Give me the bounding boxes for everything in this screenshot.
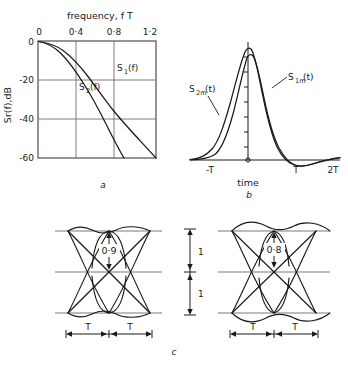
panel-b-label-s1m-tail: (t) <box>303 72 314 82</box>
panel-a-label-s2-tail: (f) <box>90 82 100 92</box>
panel-a-label-s1: S 1 (f) <box>117 63 138 76</box>
eye-left-T2-label: T <box>126 322 133 332</box>
eye-right-bottom-ripple <box>232 313 330 322</box>
panel-a-label-s2: S 2 (f) <box>79 82 100 95</box>
panel-a-caption: a <box>100 180 106 190</box>
panel-b-leader-s1m <box>272 77 287 88</box>
panel-b-leader-s2m <box>208 96 219 115</box>
panel-b: -T T 2T time S 1m (t) S 2m (t) b <box>189 42 340 200</box>
eye-right-T2-label: T <box>291 322 298 332</box>
panel-a-plot-frame <box>38 41 156 158</box>
eye-right-T1-arrow-end <box>266 331 272 336</box>
level-scale: 1 1 <box>184 229 204 315</box>
eye-right-T2-arrow-start <box>276 331 282 336</box>
panel-a-x-tick-2: 0·8 <box>107 27 122 37</box>
eye-right-top-ripple <box>232 222 330 231</box>
panel-a-y-axis-title: Sr(f),dB <box>2 87 13 123</box>
level-scale-label-lower: 1 <box>198 289 204 299</box>
eye-right-arrow-down <box>271 262 276 268</box>
panel-a-label-s1-tail: (f) <box>128 63 138 73</box>
eye-right-opening-label: 0·8 <box>266 244 281 255</box>
panel-b-label-s1m-base: S <box>288 72 294 82</box>
level-scale-arrow-bottom <box>187 309 192 315</box>
panel-b-curve-s2m <box>190 48 340 166</box>
eye-left-T2-arrow-end <box>146 331 152 336</box>
panel-a-curve-s1 <box>39 42 157 159</box>
eye-right-T2-arrow-end <box>312 331 318 336</box>
panel-a: frequency, f T Sr(f),dB 0 0·4 0·8 1·2 0 … <box>2 10 157 190</box>
panel-a-label-s1-base: S <box>117 63 123 73</box>
eye-left-T1-arrow-end <box>101 331 107 336</box>
level-scale-label-upper: 1 <box>198 247 204 257</box>
eye-left-arrow-down <box>106 264 111 270</box>
panel-a-x-axis-title: frequency, f T <box>67 10 133 21</box>
eye-diagram-right: 0·8 T T <box>218 222 330 338</box>
panel-a-y-tick-3: -60 <box>19 153 34 163</box>
level-scale-arrow-mid-up <box>187 264 192 270</box>
eye-left-lower-lens <box>92 276 126 313</box>
panel-b-label-s2m-base: S <box>189 84 195 94</box>
eye-left-T1-arrow-start <box>66 331 72 336</box>
level-scale-arrow-mid-down <box>187 274 192 280</box>
eye-right-T1-arrow-start <box>230 331 236 336</box>
panel-c: 0·9 T T <box>55 222 330 357</box>
figure-svg: frequency, f T Sr(f),dB 0 0·4 0·8 1·2 0 … <box>0 0 348 365</box>
panel-a-label-s2-base: S <box>79 82 85 92</box>
panel-a-curve-s2 <box>39 42 125 159</box>
eye-right-time-dimensions: T T <box>230 322 318 338</box>
panel-a-y-tick-1: -20 <box>19 75 34 85</box>
panel-a-x-tick-1: 0·4 <box>69 27 84 37</box>
panel-a-y-tick-2: -40 <box>19 114 34 124</box>
panel-b-label-s1m: S 1m (t) <box>272 72 314 88</box>
panel-b-x-tick-2: 2T <box>327 165 339 175</box>
panel-a-x-tick-0: 0 <box>36 27 42 37</box>
panel-b-caption: b <box>246 190 252 200</box>
panel-a-y-tick-0: 0 <box>28 37 34 47</box>
eye-left-time-dimensions: T T <box>66 322 152 338</box>
panel-b-x-tick-0: -T <box>206 165 214 175</box>
panel-a-x-tick-3: 1·2 <box>143 27 157 37</box>
eye-left-opening-label: 0·9 <box>101 245 116 256</box>
eye-right-T1-label: T <box>249 322 256 332</box>
panel-b-label-s2m: S 2m (t) <box>189 84 219 115</box>
eye-left-T2-arrow-start <box>111 331 117 336</box>
eye-diagram-left: 0·9 T T <box>55 227 162 338</box>
level-scale-arrow-top <box>187 229 192 235</box>
panel-c-caption: c <box>172 347 177 357</box>
eye-left-T1-label: T <box>84 322 91 332</box>
panel-b-x-axis-title: time <box>237 177 259 188</box>
eye-left-bottom-ripple <box>68 311 150 317</box>
panel-b-label-s2m-tail: (t) <box>205 84 216 94</box>
figure-root: frequency, f T Sr(f),dB 0 0·4 0·8 1·2 0 … <box>0 0 348 365</box>
